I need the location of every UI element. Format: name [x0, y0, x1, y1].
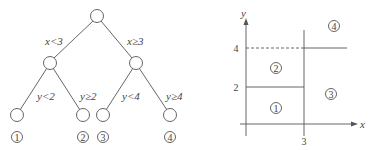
root-node [91, 10, 104, 23]
y-tick-4: 4 [234, 43, 239, 54]
svg-text:2: 2 [274, 63, 279, 74]
svg-text:3: 3 [101, 132, 106, 143]
svg-text:2: 2 [81, 132, 86, 143]
edge-label-x-lt-3: x<3 [44, 35, 63, 47]
leaf-number-3: 3 [98, 132, 109, 143]
x-axis-arrow-icon [351, 122, 358, 127]
svg-text:4: 4 [332, 21, 337, 32]
y-tick-2: 2 [234, 82, 239, 93]
edge-label-y-lt-4: y<4 [121, 90, 140, 102]
svg-text:1: 1 [274, 103, 279, 114]
edge-left-right [53, 68, 80, 110]
edge-label-x-ge-3: x≥3 [126, 35, 144, 47]
leaf-node-3 [97, 109, 110, 122]
partition-plot: y x 4 2 3 1 2 3 4 [234, 7, 366, 147]
left-internal-node [44, 57, 57, 70]
right-internal-node [130, 57, 143, 70]
svg-text:4: 4 [168, 132, 173, 143]
decision-tree: x<3 x≥3 y<2 y≥2 y<4 y≥4 1 2 3 4 [11, 10, 183, 143]
leaf-number-1: 1 [12, 132, 23, 143]
leaf-number-4: 4 [165, 132, 176, 143]
region-label-1: 1 [271, 103, 282, 114]
edge-label-y-ge-2: y≥2 [79, 90, 97, 102]
leaf-number-2: 2 [78, 132, 89, 143]
edge-left-left [20, 68, 47, 110]
region-label-2: 2 [271, 63, 282, 74]
x-tick-3: 3 [302, 136, 307, 147]
x-axis-label: x [359, 118, 365, 130]
svg-text:3: 3 [329, 89, 334, 100]
diagram-canvas: x<3 x≥3 y<2 y≥2 y<4 y≥4 1 2 3 4 y x [0, 0, 370, 150]
region-label-3: 3 [326, 89, 337, 100]
region-label-4: 4 [329, 21, 340, 32]
edge-label-y-ge-4: y≥4 [165, 90, 183, 102]
edge-right-right [139, 68, 167, 110]
svg-text:1: 1 [15, 132, 20, 143]
leaf-node-2 [77, 109, 90, 122]
edge-right-left [106, 68, 133, 110]
y-axis-label: y [240, 7, 246, 19]
y-axis-arrow-icon [244, 18, 249, 25]
edge-label-y-lt-2: y<2 [36, 90, 55, 102]
leaf-node-1 [11, 109, 24, 122]
leaf-node-4 [164, 109, 177, 122]
